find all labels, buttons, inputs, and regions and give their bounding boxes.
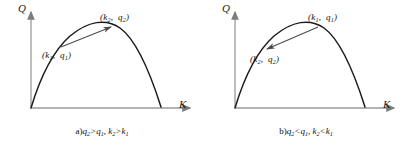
point-label-b-upper: (k1, q1): [308, 12, 337, 22]
y-axis-label-a: Q: [18, 2, 26, 14]
figure-container: Q K (k2, q2) (k1, q1) a)q2>q1, k2>k1: [0, 0, 408, 152]
point-label-b-lower: (k2, q2): [250, 54, 279, 64]
curve-a: [31, 22, 161, 108]
y-axis-label-b: Q: [222, 2, 230, 14]
transition-arrow-b: [267, 27, 318, 49]
plot-area-b: [204, 0, 408, 120]
caption-a: a)q2>q1, k2>k1: [0, 126, 204, 136]
point-label-a-upper: (k2, q2): [100, 12, 129, 22]
x-axis-label-a: K: [179, 98, 186, 110]
point-label-a-lower: (k1, q1): [42, 50, 71, 60]
x-axis-label-b: K: [383, 98, 390, 110]
panel-b: Q K (k1, q1) (k2, q2) b)q2<q1, k2<k1: [204, 0, 408, 152]
panel-a: Q K (k2, q2) (k1, q1) a)q2>q1, k2>k1: [0, 0, 204, 152]
caption-b: b)q2<q1, k2<k1: [204, 126, 408, 136]
caption-b-prefix: b): [279, 126, 287, 136]
